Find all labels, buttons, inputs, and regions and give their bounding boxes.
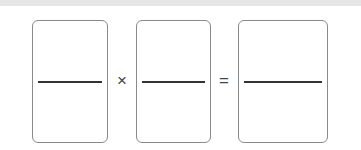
fraction-bar-2 bbox=[142, 81, 205, 83]
fraction-bar-1 bbox=[38, 81, 102, 83]
fraction-bar-result bbox=[244, 81, 322, 83]
multiply-sign: × bbox=[117, 71, 127, 91]
fraction-box-2[interactable] bbox=[136, 20, 211, 143]
top-border-strip bbox=[0, 0, 361, 6]
fraction-box-result[interactable] bbox=[238, 20, 328, 143]
fraction-box-1[interactable] bbox=[32, 20, 108, 143]
equals-sign: = bbox=[219, 71, 229, 91]
